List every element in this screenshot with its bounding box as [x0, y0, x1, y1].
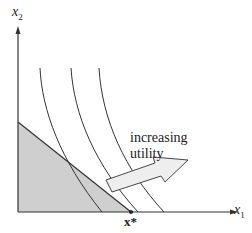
x2-axis-label: x2	[12, 4, 23, 22]
annotation-line-1: increasing	[130, 130, 188, 146]
increasing-utility-label: increasing utility	[130, 130, 188, 162]
x2-axis-arrow-icon	[16, 26, 21, 34]
annotation-line-2: utility	[130, 146, 188, 162]
increasing-utility-arrow-icon	[106, 157, 188, 192]
x1-axis-label: x1	[234, 202, 245, 220]
diagram-canvas	[0, 0, 252, 233]
x2-label-subscript: 2	[18, 12, 23, 22]
optimum-label: x*	[124, 214, 137, 230]
x1-label-subscript: 1	[240, 210, 245, 220]
